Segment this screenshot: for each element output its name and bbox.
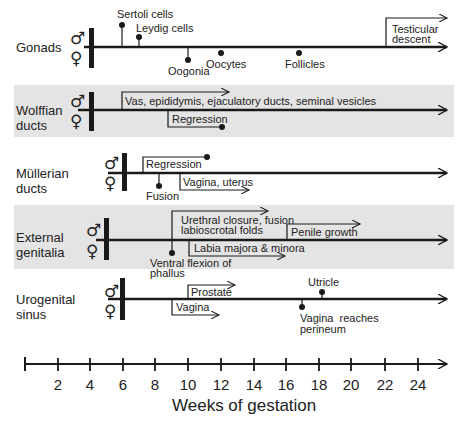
row-label-text: Wolffian [16,103,63,118]
label-follicles: Follicles [285,59,325,70]
label-testicular-descent: Testiculardescent [392,24,438,44]
label-fusion: Fusion [146,191,179,202]
label-vagina-reaches-perineum: Vagina reachesperineum [300,313,379,335]
label-penile-growth: Penile growth [291,227,358,238]
label-leydig-cells: Leydig cells [136,23,193,34]
label-oocytes: Oocytes [206,59,246,70]
label-line: descent [392,34,438,44]
row-label-text: sinus [16,307,75,322]
row-label-text: genitalia [16,245,64,260]
row-label-urogenital-sinus: Urogenitalsinus [16,292,75,322]
row-label-gonads: Gonads [16,40,62,55]
tick-label: 20 [339,377,363,392]
female-symbol-icon: ♀ [104,303,116,320]
tick-label: 14 [242,377,266,392]
label-line: phallus [150,268,231,278]
label-urethral-closure: Urethral closure, fusionlabioscrotal fol… [181,215,294,235]
row-label-text: ducts [16,118,63,133]
tick-label: 24 [406,377,430,392]
tick-label: 8 [143,377,167,392]
label-prostate: Prostate [191,287,232,298]
label-labia-majora-minora: Labia majora & minora [194,243,305,254]
row-label-external-genitalia: Externalgenitalia [16,230,64,260]
male-symbol-icon: ♂ [70,30,85,47]
female-symbol-icon: ♀ [104,175,116,192]
label-ventral-flexion: Ventral flexion ofphallus [150,258,231,278]
label-vagina: Vagina [176,302,209,313]
axis-title: Weeks of gestation [172,396,316,416]
row-label-text: External [16,230,64,245]
tick-label: 22 [373,377,397,392]
male-symbol-icon: ♂ [104,283,119,300]
male-symbol-icon: ♂ [86,222,101,239]
label-line: perineum [300,324,379,335]
row-label-text: ducts [16,181,69,196]
row-label-text: Müllerian [16,166,69,181]
row-label-mullerian-ducts: Müllerianducts [16,166,69,196]
tick-label: 12 [209,377,233,392]
sexual-differentiation-timeline: Gonads Wolffianducts Müllerianducts Exte… [0,0,462,426]
male-symbol-icon: ♂ [104,155,119,172]
tick-label: 6 [111,377,135,392]
label-sertoli-cells: Sertoli cells [117,9,173,20]
row-label-text: Urogenital [16,292,75,307]
label-mullerian-regression: Regression [146,159,202,170]
tick-label: 10 [176,377,200,392]
female-symbol-icon: ♀ [70,50,82,67]
label-wolffian-regression: Regression [172,114,228,125]
label-utricle: Utricle [308,277,339,288]
female-symbol-icon: ♀ [86,243,98,260]
tick-label: 4 [78,377,102,392]
female-symbol-icon: ♀ [70,113,82,130]
label-oogonia: Oogonia [168,66,210,77]
male-symbol-icon: ♂ [70,93,85,110]
tick-label: 2 [46,377,70,392]
weeks-axis [25,357,447,371]
urogenital-sinus-timeline [108,278,447,320]
row-label-text: Gonads [16,40,62,55]
tick-label: 16 [274,377,298,392]
label-vas-epididymis: Vas, epididymis, ejaculatory ducts, semi… [125,96,376,107]
label-vagina-uterus: Vagina, uterus [183,177,253,188]
label-line: labioscrotal folds [181,225,294,235]
row-label-wolffian-ducts: Wolffianducts [16,103,63,133]
tick-label: 18 [307,377,331,392]
